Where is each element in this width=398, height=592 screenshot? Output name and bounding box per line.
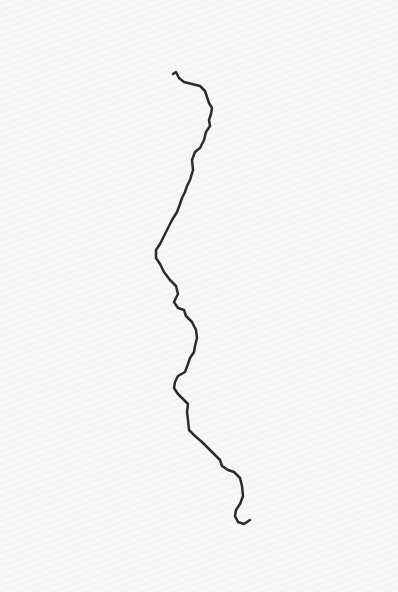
drawn-line xyxy=(0,0,398,592)
